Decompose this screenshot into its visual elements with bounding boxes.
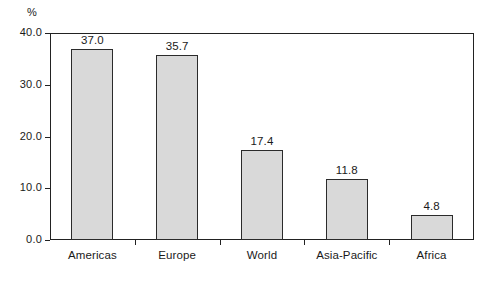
bar-value-label: 4.8 [392,200,472,212]
x-axis-tick-mark [135,240,136,245]
y-axis-tick-mark [45,240,50,241]
y-axis-tick-label: 40.0 [2,27,42,38]
x-axis-category-label: Africa [382,249,482,262]
bar-value-label: 11.8 [307,164,387,176]
x-axis-tick-mark [389,240,390,245]
y-axis-tick-mark [45,137,50,138]
bar-chart: % 0.010.020.030.040.037.0Americas35.7Eur… [0,0,484,281]
bar [241,150,283,240]
x-axis-tick-mark [304,240,305,245]
y-axis-tick-mark [45,85,50,86]
y-axis-unit-label: % [27,6,37,18]
bar [156,55,198,240]
y-axis-tick-label: 0.0 [2,234,42,245]
bar [71,49,113,240]
bar-value-label: 37.0 [52,34,132,46]
x-axis-tick-mark [220,240,221,245]
y-axis-tick-label: 30.0 [2,79,42,90]
y-axis-tick-label: 10.0 [2,182,42,193]
bar-value-label: 35.7 [137,40,217,52]
bar [326,179,368,240]
bar-value-label: 17.4 [222,135,302,147]
y-axis-tick-label: 20.0 [2,131,42,142]
y-axis-tick-mark [45,33,50,34]
y-axis-tick-mark [45,188,50,189]
bar [411,215,453,240]
